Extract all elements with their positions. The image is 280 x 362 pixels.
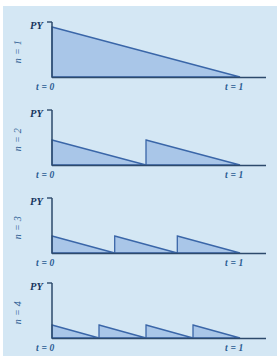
sawtooth-area-n3-3: [177, 236, 240, 253]
panel-n1: n = 1 PY t = 0 t = 1: [3, 10, 277, 97]
panel-n3: n = 3 PY t = 0 t = 1: [3, 186, 277, 273]
sawtooth-area-n4-4: [193, 325, 240, 338]
panel-n4-plot: [3, 271, 277, 358]
panel-n1-plot: [3, 10, 277, 97]
sawtooth-area-n3-2: [115, 236, 178, 253]
sawtooth-area-n2-2: [146, 140, 240, 165]
figure-plate: n = 1 PY t = 0 t = 1 n = 2 PY t = 0 t = …: [3, 6, 277, 356]
figure-root: n = 1 PY t = 0 t = 1 n = 2 PY t = 0 t = …: [0, 0, 280, 362]
sawtooth-area-n4-1: [52, 325, 99, 338]
panel-n2: n = 2 PY t = 0 t = 1: [3, 98, 277, 185]
sawtooth-area-n4-3: [146, 325, 193, 338]
panel-n3-plot: [3, 186, 277, 273]
sawtooth-area-n1-1: [52, 27, 240, 77]
sawtooth-area-n3-1: [52, 236, 115, 253]
panel-n4: n = 4 PY t = 0 t = 1: [3, 271, 277, 358]
sawtooth-area-n2-1: [52, 140, 146, 165]
sawtooth-area-n4-2: [99, 325, 146, 338]
panel-n2-plot: [3, 98, 277, 185]
